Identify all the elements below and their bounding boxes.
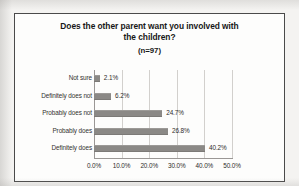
chart-title-line-2: the children? [23,32,276,43]
chart-frame: Does the other parent want you involved … [14,13,285,182]
xtick-40: 40.0% [196,161,214,171]
bar-row: 24.7% [94,105,233,123]
bar-value-definitely-does: 40.2% [209,143,227,153]
bar-value-definitely-does-not: 6.2% [115,91,129,101]
bar-definitely-does-not[interactable] [94,93,111,100]
bar-row: 26.8% [94,123,233,141]
category-label-definitely-does-not: Definitely does not [15,91,92,101]
chart-subtitle-sample-size: (n=97) [23,44,276,56]
bar-value-probably-does-not: 24.7% [166,108,184,118]
xtick-30: 30.0% [168,161,186,171]
xtick-10: 10.0% [113,161,131,171]
scanned-page: Does the other parent want you involved … [0,0,299,186]
bar-probably-does-not[interactable] [94,110,162,117]
bar-value-not-sure: 2.1% [104,73,118,83]
xtick-0: 0.0% [87,161,101,171]
bar-row: 6.2% [94,88,233,106]
x-axis-line [94,158,233,159]
category-label-definitely-does: Definitely does [15,143,92,153]
bar-row: 2.1% [94,70,233,88]
bar-not-sure[interactable] [94,75,100,82]
category-label-probably-does-not: Probably does not [15,108,92,118]
category-label-probably-does: Probably does [15,126,92,136]
x-axis-tick-labels: 0.0% 10.0% 20.0% 30.0% 40.0% 50.0% [94,161,233,173]
bar-probably-does[interactable] [94,128,168,135]
chart-title: Does the other parent want you involved … [23,21,276,56]
xtick-20: 20.0% [140,161,158,171]
plot-wrapper: Not sure Definitely does not Probably do… [15,70,284,182]
xtick-50: 50.0% [223,161,241,171]
bar-value-probably-does: 26.8% [172,126,190,136]
bar-definitely-does[interactable] [94,145,205,152]
category-axis-labels: Not sure Definitely does not Probably do… [15,70,92,158]
bar-row: 40.2% [94,140,233,158]
category-label-not-sure: Not sure [15,73,92,83]
chart-title-line-1: Does the other parent want you involved … [23,21,276,32]
plot-area: 2.1% 6.2% 24.7% 26.8% 40.2% [94,70,233,158]
